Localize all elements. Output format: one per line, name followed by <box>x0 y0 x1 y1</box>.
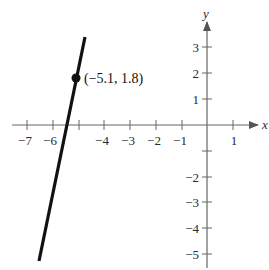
svg-text:3: 3 <box>193 40 200 55</box>
svg-text:2: 2 <box>193 66 200 81</box>
point-label: (−5.1, 1.8) <box>84 71 144 87</box>
svg-text:−3: −3 <box>185 195 199 210</box>
svg-text:−2: −2 <box>147 133 161 148</box>
svg-text:1: 1 <box>231 133 238 148</box>
svg-text:−6: −6 <box>43 133 57 148</box>
svg-text:−7: −7 <box>18 133 32 148</box>
x-axis-label: x <box>261 117 268 132</box>
svg-text:1: 1 <box>193 92 200 107</box>
y-axis-label: y <box>201 6 209 21</box>
svg-text:−1: −1 <box>173 133 187 148</box>
y-tick-labels: 3 2 1 −2 −3 −4 −5 <box>185 40 199 262</box>
plotted-line <box>39 37 85 261</box>
svg-text:−3: −3 <box>121 133 135 148</box>
svg-text:−4: −4 <box>185 221 199 236</box>
svg-text:−2: −2 <box>185 170 199 185</box>
point-marker <box>72 74 81 83</box>
x-tick-labels: −7 −6 −4 −3 −2 −1 1 <box>18 133 237 148</box>
svg-text:−4: −4 <box>95 133 109 148</box>
svg-text:−5: −5 <box>185 247 199 262</box>
coordinate-plane: x y −7 −6 −4 −3 −2 −1 1 3 2 1 −2 −3 − <box>0 0 269 270</box>
